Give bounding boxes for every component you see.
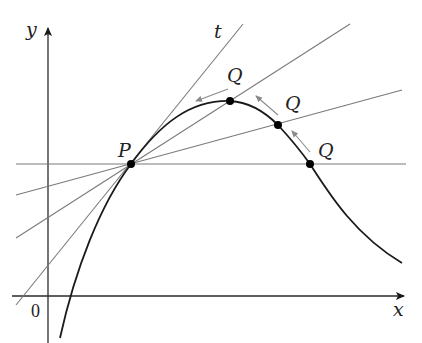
point-p-label: P [117,139,132,161]
secant-line-pq1 [16,24,350,238]
y-axis-label: y [25,18,37,40]
point-q1 [226,97,234,105]
tangent-label: t [214,20,222,42]
approach-arrow-1 [196,89,228,101]
secant-tangent-diagram: y x 0 P t Q Q Q [0,0,422,343]
secant-line-pq2 [16,90,402,195]
point-q2-label: Q [285,92,301,114]
point-q2 [274,121,282,129]
approach-arrow-2 [256,96,278,115]
point-p [127,160,135,168]
origin-label: 0 [31,301,40,321]
approach-arrow-3 [292,131,310,152]
point-q1-label: Q [227,64,243,86]
x-axis-label: x [393,298,404,320]
point-q3 [306,160,314,168]
point-q3-label: Q [318,139,334,161]
